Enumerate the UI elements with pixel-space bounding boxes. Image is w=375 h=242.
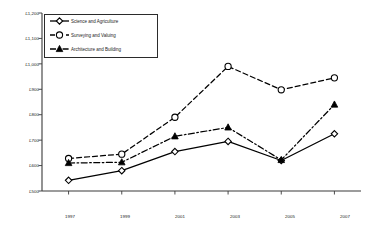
line-chart: £1,200 £1,100 £1,000 £900 £800 £700 £600… <box>0 0 375 242</box>
series-layer <box>65 63 337 183</box>
y-tick-label: £800 <box>8 112 39 117</box>
legend-item-architecture-and-building[interactable]: Architecture and Building <box>71 47 121 52</box>
x-tick-label: 1999 <box>111 214 139 219</box>
x-tick-label: 2005 <box>276 214 304 219</box>
series-architecture-and-building <box>65 101 337 166</box>
y-tick-label: £1,100 <box>8 36 39 41</box>
y-tick-label: £900 <box>8 87 39 92</box>
x-tick-label: 2003 <box>221 214 249 219</box>
x-tick-label: 2001 <box>166 214 194 219</box>
y-tick-label: £500 <box>8 189 39 194</box>
series-science-and-agriculture <box>65 131 337 184</box>
x-tick-label: 2007 <box>331 214 359 219</box>
y-tick-label: £1,200 <box>8 11 39 16</box>
y-tick-label: £700 <box>8 138 39 143</box>
legend-item-science-and-agriculture[interactable]: Science and Agriculture <box>71 19 118 24</box>
x-tick-label: 1997 <box>56 214 84 219</box>
legend-item-surveying-and-valuing[interactable]: Surveying and Valuing <box>71 33 116 38</box>
y-tick-label: £1,000 <box>8 62 39 67</box>
y-tick-label: £600 <box>8 163 39 168</box>
chart-plot-area <box>0 0 375 242</box>
